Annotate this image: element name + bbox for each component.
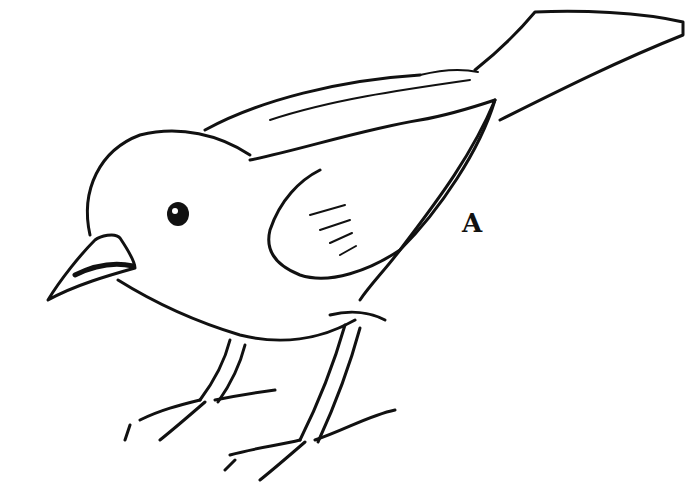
bird-drawing [0,0,685,490]
bird-sketch-figure: A [0,0,685,490]
figure-label: A [462,208,482,238]
